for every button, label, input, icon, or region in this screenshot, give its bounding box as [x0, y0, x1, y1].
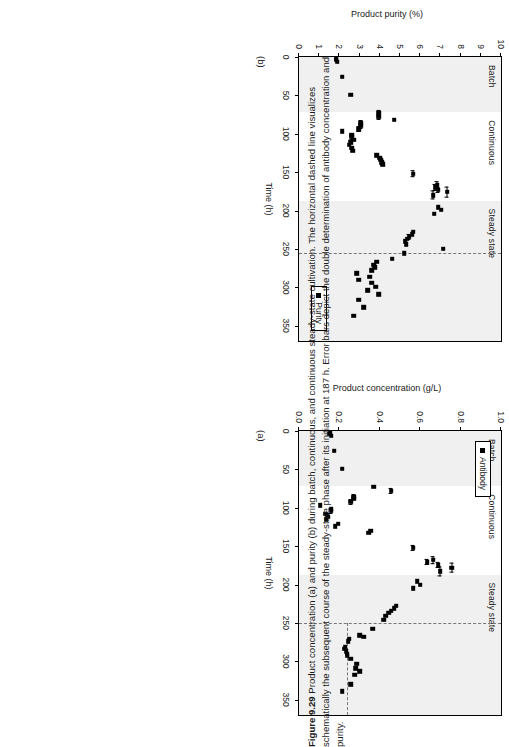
figure-stage: BatchContinuousSteady state0501001502002…	[258, 0, 509, 747]
chart-panel-a: BatchContinuousSteady state0501001502002…	[258, 378, 509, 730]
data-point	[374, 284, 378, 288]
data-point	[439, 208, 443, 212]
y-tick-label: 0.4	[375, 411, 385, 423]
y-tick	[460, 53, 461, 57]
y-tick-label: 1.0	[496, 411, 506, 423]
band-label-steady-state: Steady state	[487, 209, 497, 259]
data-point	[352, 673, 356, 677]
y-tick	[460, 427, 461, 431]
x-tick-label: 0	[281, 55, 291, 60]
y-tick-label: 6	[415, 44, 425, 49]
x-tick	[295, 431, 299, 432]
legend-antibody[interactable]: Antibody	[475, 441, 491, 497]
y-tick	[298, 53, 299, 57]
x-tick-label: 50	[281, 91, 291, 100]
x-tick	[295, 95, 299, 96]
y-tick-label: 0.0	[294, 411, 304, 423]
x-tick-label: 250	[281, 616, 291, 630]
data-point	[449, 565, 453, 569]
y-tick-label: 9	[476, 44, 486, 49]
data-point	[382, 618, 386, 622]
x-tick-label: 200	[281, 203, 291, 217]
legend-marker-icon	[481, 448, 486, 453]
data-point	[350, 148, 354, 152]
y-tick	[379, 427, 380, 431]
x-tick-label: 300	[281, 654, 291, 668]
y-tick	[419, 53, 420, 57]
figure-number: Figure 9.29	[306, 696, 317, 747]
x-tick	[295, 661, 299, 662]
x-tick-label: 50	[281, 465, 291, 474]
data-point	[431, 193, 435, 197]
data-point	[370, 268, 374, 272]
data-point	[418, 582, 422, 586]
x-tick-label: 350	[281, 319, 291, 333]
y-tick	[480, 53, 481, 57]
y-axis-title-b: Product purity (%)	[287, 9, 487, 19]
data-point	[425, 560, 429, 564]
x-tick-label: 200	[281, 577, 291, 591]
data-point	[432, 211, 436, 215]
data-point	[348, 499, 352, 503]
data-point	[356, 297, 360, 301]
data-point	[392, 118, 396, 122]
data-point	[436, 188, 440, 192]
data-point	[357, 669, 361, 673]
data-point	[371, 627, 375, 631]
x-tick	[295, 211, 299, 212]
data-point	[431, 558, 435, 562]
data-point	[372, 485, 376, 489]
data-point	[411, 586, 415, 590]
x-tick-label: 250	[281, 242, 291, 256]
y-tick-label: 0.6	[415, 411, 425, 423]
data-point	[381, 162, 385, 166]
data-point	[411, 171, 415, 175]
data-point	[361, 635, 365, 639]
x-tick	[295, 249, 299, 250]
data-point	[354, 271, 358, 275]
x-tick-label: 0	[281, 429, 291, 434]
y-tick	[500, 427, 501, 431]
x-tick-label: 150	[281, 539, 291, 553]
panel-tag-a: (a)	[256, 430, 267, 442]
y-tick-label: 0.8	[456, 411, 466, 423]
y-tick	[379, 53, 380, 57]
data-point	[390, 257, 394, 261]
data-point	[346, 639, 350, 643]
x-tick	[295, 623, 299, 624]
data-point	[351, 313, 355, 317]
data-point	[402, 251, 406, 255]
band-label-batch: Batch	[487, 65, 497, 88]
y-tick-label: 5	[395, 44, 405, 49]
y-tick-label: 10	[496, 40, 506, 49]
band-label-continuous: Continuous	[487, 120, 497, 165]
chart-panel-b: BatchContinuousSteady state0501001502002…	[258, 4, 509, 356]
x-axis-title-a: Time (h)	[264, 430, 274, 716]
data-point	[377, 115, 381, 119]
data-point	[356, 277, 360, 281]
data-point	[348, 92, 352, 96]
y-tick-label: 8	[456, 44, 466, 49]
y-tick	[500, 53, 501, 57]
data-point	[377, 292, 381, 296]
panel-tag-b: (b)	[256, 56, 267, 68]
y-tick	[439, 53, 440, 57]
y-tick	[399, 53, 400, 57]
x-tick-label: 100	[281, 501, 291, 515]
y-tick-label: 3	[355, 44, 365, 49]
x-tick	[295, 508, 299, 509]
x-tick	[295, 57, 299, 58]
band-label-continuous: Continuous	[487, 494, 497, 539]
y-tick	[419, 427, 420, 431]
data-point	[404, 242, 408, 246]
x-tick	[295, 172, 299, 173]
data-point	[348, 682, 352, 686]
y-tick-label: 0	[294, 44, 304, 49]
data-point	[361, 305, 365, 309]
x-tick	[295, 700, 299, 701]
x-tick-label: 150	[281, 165, 291, 179]
x-tick	[295, 546, 299, 547]
data-point	[365, 288, 369, 292]
x-tick	[295, 287, 299, 288]
y-tick	[298, 427, 299, 431]
